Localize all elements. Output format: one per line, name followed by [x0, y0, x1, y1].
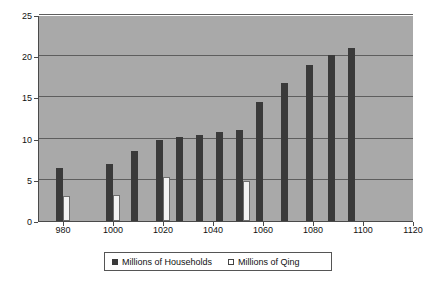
gridline	[39, 179, 413, 180]
legend-label-households: Millions of Households	[122, 257, 212, 267]
x-axis-tick-mark	[63, 222, 64, 226]
y-axis-tick-mark	[34, 16, 38, 17]
bar	[256, 102, 263, 221]
x-axis-tick-label: 1020	[143, 226, 183, 235]
x-axis-tick-label: 1040	[193, 226, 233, 235]
y-axis-tick-mark	[34, 222, 38, 223]
chart-legend: Millions of Households Millions of Qing	[104, 252, 332, 271]
bar	[106, 164, 113, 221]
hollow-square-marker-icon	[228, 259, 234, 265]
gridline	[39, 14, 413, 15]
x-axis-tick-label: 980	[43, 226, 83, 235]
y-axis-tick-mark	[34, 181, 38, 182]
gridline	[39, 96, 413, 97]
x-axis-tick-mark	[313, 222, 314, 226]
y-axis-tick-label: 10	[4, 136, 32, 145]
bar	[236, 130, 243, 221]
bar	[243, 181, 250, 221]
bar	[348, 48, 355, 221]
legend-label-qing: Millions of Qing	[238, 257, 300, 267]
y-axis-tick-mark	[34, 98, 38, 99]
filled-square-marker-icon	[112, 259, 118, 265]
gridline	[39, 55, 413, 56]
y-axis-tick-label: 15	[4, 94, 32, 103]
legend-item-millions-of-qing: Millions of Qing	[228, 257, 300, 267]
bar	[216, 132, 223, 221]
x-axis-tick-label: 1120	[393, 226, 433, 235]
y-axis-tick-mark	[34, 57, 38, 58]
bar	[281, 83, 288, 221]
gridline	[39, 138, 413, 139]
y-axis-tick-label: 0	[4, 218, 32, 227]
bar	[56, 168, 63, 221]
x-axis-tick-label: 1000	[93, 226, 133, 235]
x-axis-tick-mark	[163, 222, 164, 226]
bar	[306, 65, 313, 221]
x-axis-tick-mark	[413, 222, 414, 226]
x-axis-tick-mark	[363, 222, 364, 226]
x-axis-tick-label: 1060	[243, 226, 283, 235]
bar	[328, 55, 335, 221]
y-axis-tick-mark	[34, 140, 38, 141]
bar	[196, 135, 203, 221]
bar	[163, 177, 170, 221]
x-axis-tick-mark	[263, 222, 264, 226]
x-axis-tick-label: 1100	[343, 226, 383, 235]
legend-item-millions-of-households: Millions of Households	[112, 257, 212, 267]
x-axis-tick-mark	[113, 222, 114, 226]
y-axis-tick-label: 5	[4, 177, 32, 186]
y-axis-tick-label: 20	[4, 53, 32, 62]
bar-chart-figure: 0510152025 98010001020104010601080110011…	[0, 0, 433, 281]
plot-inner	[39, 16, 413, 221]
x-axis-tick-label: 1080	[293, 226, 333, 235]
bar	[113, 195, 120, 221]
bar	[131, 151, 138, 221]
x-axis-tick-mark	[213, 222, 214, 226]
bar	[176, 137, 183, 221]
plot-area	[38, 16, 413, 222]
bar	[156, 140, 163, 221]
y-axis-tick-label: 25	[4, 12, 32, 21]
bar	[63, 196, 70, 221]
